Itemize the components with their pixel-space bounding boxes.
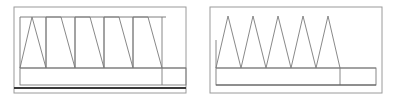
technical-drawing-svg — [0, 0, 396, 103]
right-panel — [210, 7, 382, 93]
figure-canvas — [0, 0, 396, 103]
left-panel-frame — [14, 7, 186, 93]
right-panel-triangle-wave — [216, 16, 340, 68]
left-panel-sawtooth-wave — [20, 17, 162, 68]
right-panel-frame — [210, 7, 382, 93]
left-panel — [14, 7, 186, 93]
right-panel-lower-band — [216, 68, 376, 85]
left-panel-lower-band — [20, 68, 186, 85]
